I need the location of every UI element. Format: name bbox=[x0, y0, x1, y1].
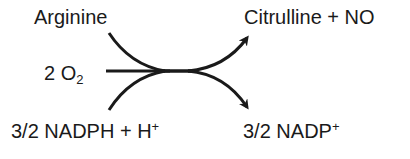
nadp-superscript: + bbox=[332, 119, 340, 134]
nadp-output-arrow bbox=[188, 71, 247, 107]
nadph-text: 3/2 NADPH + H bbox=[11, 120, 152, 142]
reactant-oxygen: 2 O2 bbox=[44, 63, 83, 83]
nadp-text: 3/2 NADP bbox=[243, 120, 332, 142]
nadph-superscript: + bbox=[152, 119, 160, 134]
arginine-text: Arginine bbox=[34, 6, 107, 28]
nadph-input-curve bbox=[109, 71, 165, 110]
citrulline-no-text: Citrulline + NO bbox=[244, 6, 375, 28]
reactant-arginine: Arginine bbox=[34, 7, 107, 27]
reactant-nadph: 3/2 NADPH + H+ bbox=[11, 121, 159, 141]
product-nadp: 3/2 NADP+ bbox=[243, 121, 340, 141]
arginine-input-curve bbox=[109, 33, 165, 71]
product-citrulline-no: Citrulline + NO bbox=[244, 7, 375, 27]
oxygen-subscript: 2 bbox=[76, 72, 83, 87]
citrulline-output-arrow bbox=[188, 38, 247, 71]
oxygen-text: 2 O bbox=[44, 62, 76, 84]
